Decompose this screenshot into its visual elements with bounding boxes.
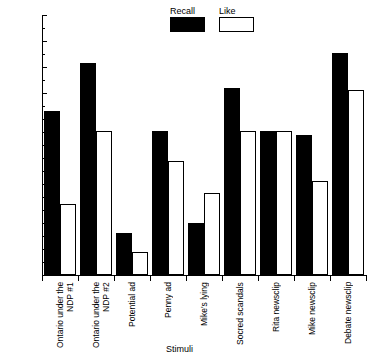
x-axis-tick-label: Potential ad [127,282,137,360]
bar-recall [44,111,60,275]
bar-recall [332,53,348,275]
legend-entry-like: Like [219,6,254,32]
y-axis-tick [42,41,47,42]
bar-recall [260,131,276,275]
x-axis-tick [186,275,187,281]
y-axis-minor-tick [42,80,45,81]
legend-label-like: Like [219,6,236,16]
bar-chart: Recall Like 0102030405060708090100 Perce… [0,0,375,364]
x-axis-tick-label: Ontario under the NDP #1 [55,282,75,360]
legend-swatch-recall [170,17,205,32]
bar-like [204,193,220,275]
legend-swatch-like [219,17,254,32]
x-axis-tick [366,275,367,281]
y-axis-minor-tick [42,28,45,29]
x-axis-tick-label: Socred scandals [235,282,245,360]
y-axis-minor-tick [42,106,45,107]
y-axis-tick [42,93,47,94]
x-axis-tick [114,275,115,281]
y-axis-tick [42,67,47,68]
x-axis-title: Stimuli [166,345,193,354]
bar-like [348,90,364,275]
bar-like [240,131,256,275]
bar-like [312,181,328,275]
bar-like [132,252,148,275]
bar-recall [296,135,312,275]
y-axis-tick [42,15,47,16]
legend-label-recall: Recall [170,6,195,16]
bar-recall [188,223,204,275]
x-axis-tick-label: Ontario under the NDP #2 [91,282,111,360]
bar-like [168,161,184,275]
bar-like [276,131,292,275]
bar-recall [152,131,168,275]
x-axis-line [42,275,367,276]
y-axis-minor-tick [42,54,45,55]
x-axis-tick [78,275,79,281]
legend-entry-recall: Recall [170,6,205,32]
x-axis-tick [258,275,259,281]
bar-like [96,131,112,275]
bar-recall [116,233,132,275]
x-axis-tick [42,275,43,281]
x-axis-tick-label: Mike's lying [199,282,209,360]
x-axis-tick-label: Rita newsclip [271,282,281,360]
x-axis-tick [330,275,331,281]
x-axis-tick [150,275,151,281]
bar-recall [80,63,96,275]
x-axis-tick [222,275,223,281]
x-axis-tick-label: Mike newsclip [307,282,317,360]
x-axis-tick [294,275,295,281]
bar-recall [224,88,240,275]
chart-legend: Recall Like [170,6,254,32]
bar-like [60,204,76,276]
x-axis-tick-label: Debate newsclip [343,282,353,360]
